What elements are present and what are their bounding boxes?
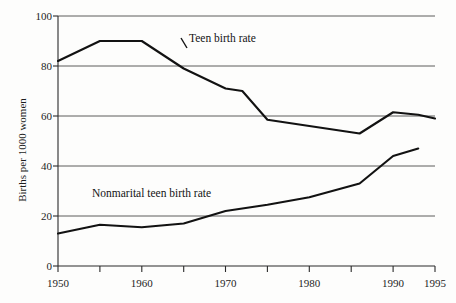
x-tick-label-1970: 1970 bbox=[215, 277, 238, 289]
line-chart: Births per 1000 women 100 80 60 40 20 0 bbox=[0, 0, 456, 303]
y-tick-label-100: 100 bbox=[36, 10, 53, 22]
x-tick-label-1995: 1995 bbox=[424, 277, 447, 289]
chart-figure: Births per 1000 women 100 80 60 40 20 0 bbox=[0, 0, 456, 303]
annotation-teen-birth-rate: Teen birth rate bbox=[189, 32, 256, 44]
y-tick-label-20: 20 bbox=[41, 210, 53, 222]
y-axis-title: Births per 1000 women bbox=[16, 98, 28, 202]
y-tick-label-80: 80 bbox=[41, 60, 53, 72]
teen-label-leader bbox=[181, 38, 187, 48]
series-line-teen-birth-rate bbox=[58, 41, 435, 134]
x-tick-label-1960: 1960 bbox=[131, 277, 154, 289]
y-tick-label-0: 0 bbox=[47, 260, 53, 272]
x-tick-label-1990: 1990 bbox=[382, 277, 405, 289]
annotation-nonmarital-teen-birth-rate: Nonmarital teen birth rate bbox=[92, 187, 211, 199]
y-tick-label-40: 40 bbox=[41, 160, 53, 172]
x-tick-label-1980: 1980 bbox=[298, 277, 321, 289]
y-tick-label-60: 60 bbox=[41, 110, 53, 122]
x-tick-label-1950: 1950 bbox=[47, 277, 70, 289]
